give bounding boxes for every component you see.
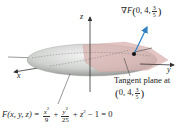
- ellipsoid-equation: F(x, y, z) = x29 + y225 + z2 − 1 = 0: [2, 106, 112, 124]
- tangent-point: [132, 52, 136, 56]
- tangent-plane-label: Tangent plane at: [114, 76, 170, 85]
- tangent-point-label: (0, 4,35): [115, 87, 144, 100]
- x-axis-label: x: [17, 72, 21, 80]
- tangent-plane: [83, 42, 168, 72]
- gradient-label: ∇F(0, 4,35): [121, 5, 161, 18]
- leader-ellipsoid: [58, 74, 70, 104]
- z-axis-label: z: [80, 13, 83, 21]
- y-axis-label: y: [167, 66, 171, 74]
